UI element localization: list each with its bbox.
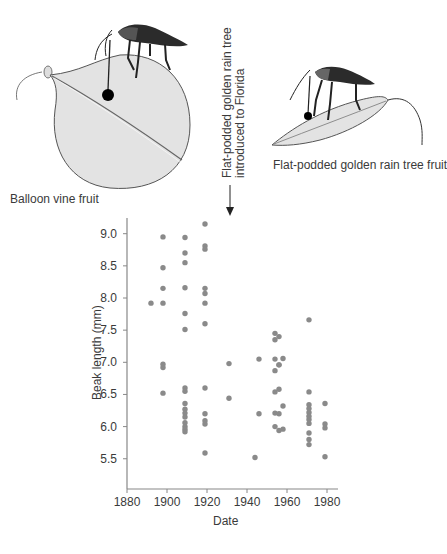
data-point bbox=[252, 455, 257, 460]
y-tick-label: 5.5 bbox=[87, 452, 117, 466]
data-point bbox=[306, 317, 311, 322]
y-tick-label: 9.0 bbox=[87, 227, 117, 241]
x-tick-label: 1920 bbox=[187, 495, 227, 509]
x-tick-label: 1960 bbox=[267, 495, 307, 509]
data-point bbox=[306, 421, 311, 426]
data-point bbox=[276, 334, 281, 339]
data-point bbox=[276, 387, 281, 392]
y-tick-label: 7.0 bbox=[87, 355, 117, 369]
data-point bbox=[280, 356, 285, 361]
data-point bbox=[160, 265, 165, 270]
data-point bbox=[256, 356, 261, 361]
data-point bbox=[148, 300, 153, 305]
data-point bbox=[182, 285, 187, 290]
data-point bbox=[182, 235, 187, 240]
data-point bbox=[182, 401, 187, 406]
data-point bbox=[306, 437, 311, 442]
data-point bbox=[182, 327, 187, 332]
data-point bbox=[182, 250, 187, 255]
data-point bbox=[226, 396, 231, 401]
data-point bbox=[306, 389, 311, 394]
data-point bbox=[226, 361, 231, 366]
data-point bbox=[160, 234, 165, 239]
x-axis-title: Date bbox=[213, 514, 238, 528]
y-tick-label: 6.0 bbox=[87, 420, 117, 434]
data-point bbox=[272, 424, 277, 429]
x-tick-label: 1940 bbox=[227, 495, 267, 509]
data-point bbox=[202, 321, 207, 326]
data-point bbox=[160, 365, 165, 370]
data-point bbox=[202, 286, 207, 291]
data-point bbox=[182, 389, 187, 394]
data-point bbox=[256, 411, 261, 416]
data-point bbox=[280, 403, 285, 408]
data-point bbox=[202, 221, 207, 226]
data-point bbox=[276, 362, 281, 367]
data-point bbox=[272, 368, 277, 373]
x-tick-label: 1900 bbox=[147, 495, 187, 509]
y-tick-label: 6.5 bbox=[87, 387, 117, 401]
data-point bbox=[306, 442, 311, 447]
x-tick-label: 1880 bbox=[107, 495, 147, 509]
data-point bbox=[182, 429, 187, 434]
data-point bbox=[322, 401, 327, 406]
data-point bbox=[322, 454, 327, 459]
data-point bbox=[202, 300, 207, 305]
data-point bbox=[160, 300, 165, 305]
data-point bbox=[202, 246, 207, 251]
data-point bbox=[276, 411, 281, 416]
y-tick-label: 7.5 bbox=[87, 323, 117, 337]
data-point bbox=[182, 260, 187, 265]
data-point bbox=[182, 311, 187, 316]
y-tick-label: 8.0 bbox=[87, 291, 117, 305]
y-tick-label: 8.5 bbox=[87, 259, 117, 273]
data-point bbox=[202, 450, 207, 455]
data-point bbox=[202, 291, 207, 296]
x-tick-label: 1980 bbox=[307, 495, 347, 509]
data-point bbox=[202, 411, 207, 416]
data-point bbox=[272, 356, 277, 361]
data-point bbox=[160, 286, 165, 291]
data-point bbox=[306, 430, 311, 435]
data-point bbox=[202, 385, 207, 390]
y-axis-title: Beak length (mm) bbox=[90, 305, 104, 400]
data-point bbox=[202, 421, 207, 426]
data-point bbox=[182, 414, 187, 419]
data-point bbox=[280, 426, 285, 431]
data-point bbox=[322, 425, 327, 430]
data-point bbox=[160, 390, 165, 395]
